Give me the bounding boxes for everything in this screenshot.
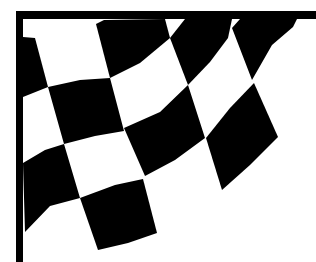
checkered-flag-illustration	[0, 0, 316, 262]
flag-pole	[16, 11, 23, 262]
flag-crossbar	[16, 11, 316, 19]
